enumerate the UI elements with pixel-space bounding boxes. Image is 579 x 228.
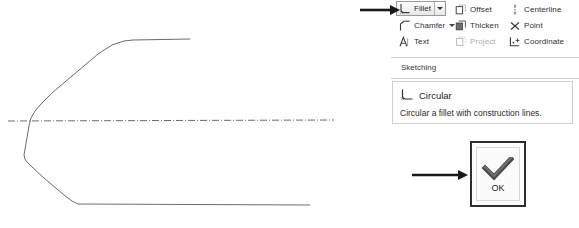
tooltip-description: Circular a fillet with construction line… [400, 108, 542, 118]
point-button-label: Point [524, 21, 543, 30]
project-button-label: Project [470, 37, 496, 46]
ok-button[interactable]: OK [476, 147, 520, 201]
sketch-centerline [8, 120, 334, 121]
offset-button[interactable]: Offset [455, 3, 492, 17]
fillet-button-label: Fillet [414, 4, 431, 13]
project-button: Project [455, 35, 496, 49]
centerline-button[interactable]: Centerline [509, 3, 561, 17]
annotation-arrow-to-fillet [360, 3, 402, 17]
annotation-arrow-to-ok [412, 168, 470, 182]
text-icon [399, 36, 411, 48]
cad-sketch-canvas [0, 0, 360, 228]
text-button-label: Text [414, 37, 429, 46]
thicken-icon [455, 20, 467, 32]
fillet-button-main[interactable]: Fillet [399, 2, 434, 15]
coordinate-button[interactable]: Coordinate [509, 35, 564, 49]
fillet-button[interactable]: Fillet [396, 1, 446, 16]
coordinate-button-label: Coordinate [524, 37, 564, 46]
chamfer-button-label: Chamfer [414, 21, 445, 30]
coordinate-icon [509, 36, 521, 48]
text-button[interactable]: Text [399, 35, 429, 49]
thicken-button-label: Thicken [470, 21, 499, 30]
fillet-tooltip: Circular Circular a fillet with construc… [392, 81, 573, 124]
ok-button-label: OK [477, 183, 519, 193]
sketching-panel-header: Sketching [391, 57, 579, 79]
sketch-profile-lower [24, 155, 310, 205]
ribbon-row-1: Fillet Offset Centerline [391, 2, 579, 17]
project-icon [455, 36, 467, 48]
tooltip-title: Circular [419, 90, 452, 101]
centerline-button-label: Centerline [524, 5, 561, 14]
ok-button-highlight-box: OK [470, 141, 526, 207]
tooltip-title-row: Circular [400, 88, 452, 102]
chamfer-icon [399, 20, 411, 32]
checkmark-icon [482, 157, 514, 181]
point-icon [509, 20, 521, 32]
chevron-down-icon [437, 7, 443, 10]
ribbon-row-2: Chamfer Thicken Point [391, 18, 579, 33]
fillet-dropdown-toggle[interactable] [434, 2, 445, 15]
sketch-profile-upper [24, 39, 190, 155]
offset-icon [455, 4, 467, 16]
ribbon-row-3: Text Project Coordinate [391, 34, 579, 49]
thicken-button[interactable]: Thicken [455, 19, 499, 33]
sketching-ribbon-toolbar: Fillet Offset Centerline [391, 0, 579, 56]
point-button[interactable]: Point [509, 19, 543, 33]
centerline-icon [509, 4, 521, 16]
fillet-icon [400, 88, 414, 102]
sketching-panel-title: Sketching [401, 63, 436, 72]
offset-button-label: Offset [470, 5, 492, 14]
chamfer-button[interactable]: Chamfer [399, 19, 455, 33]
